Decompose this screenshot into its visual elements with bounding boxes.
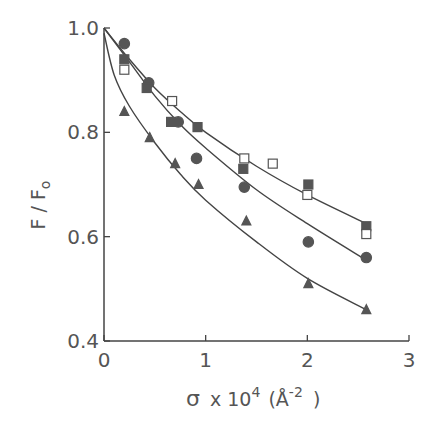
filled-triangle-point [362,305,371,314]
filled-triangle-point [120,106,129,115]
x-tick-label: 3 [403,348,416,372]
filled-circle-point [361,252,371,262]
data-points [119,38,371,313]
filled-circle-point [119,38,129,48]
filled-square-point [304,180,313,189]
filled-square-point [239,164,248,173]
filled-triangle-point [194,180,203,189]
open-square-point [303,190,312,199]
filled-square-point [120,55,129,64]
y-tick-label: 1.0 [67,16,99,40]
filled-circle-point [239,182,249,192]
filled-triangle-point [145,133,154,142]
y-tick-label: 0.4 [67,329,99,353]
svg-text:σ x 104 (Å-2: σ x 104 (Å-2 ) [186,379,320,411]
filled-triangle-point [304,279,313,288]
upper-fit-curve [104,28,366,224]
filled-square-point [167,117,176,126]
x-tick-label: 0 [98,348,111,372]
open-square-point [168,97,177,106]
filled-square-point [142,83,151,92]
y-tick-label: 0.8 [67,120,99,144]
open-square-point [120,65,129,74]
x-tick-label: 1 [199,348,212,372]
x-tick-label: 2 [301,348,314,372]
open-square-point [268,159,277,168]
filled-triangle-point [171,159,180,168]
fit-curves [104,28,366,310]
x-axis-label: σ x 104 (Å-2 ) [186,379,320,411]
filled-circle-point [191,153,201,163]
svg-text:F / Fo: F / Fo [27,181,53,230]
open-square-point [362,230,371,239]
chart: 0.40.60.81.00123 F / Fo σ x 104 (Å-2 ) [0,0,437,431]
y-axis-label: F / Fo [27,181,53,230]
open-square-point [240,154,249,163]
y-tick-label: 0.6 [67,225,99,249]
filled-circle-point [303,237,313,247]
axes [104,28,409,341]
filled-triangle-point [242,216,251,225]
filled-square-point [193,123,202,132]
